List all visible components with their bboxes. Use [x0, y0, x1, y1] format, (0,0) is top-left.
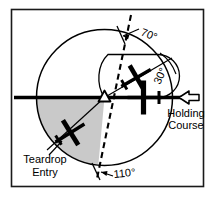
figure-container: 70° 30° 110° Holding Course Teardrop Ent…: [0, 0, 214, 197]
label-holding-course-line1: Holding: [167, 107, 204, 119]
label-angle-110: 110°: [113, 166, 136, 180]
holding-pattern-diagram: 70° 30° 110° Holding Course Teardrop Ent…: [0, 0, 214, 197]
label-teardrop-line1: Teardrop: [23, 153, 66, 165]
label-holding-course-line2: Course: [168, 119, 203, 131]
label-teardrop-line2: Entry: [32, 166, 58, 178]
